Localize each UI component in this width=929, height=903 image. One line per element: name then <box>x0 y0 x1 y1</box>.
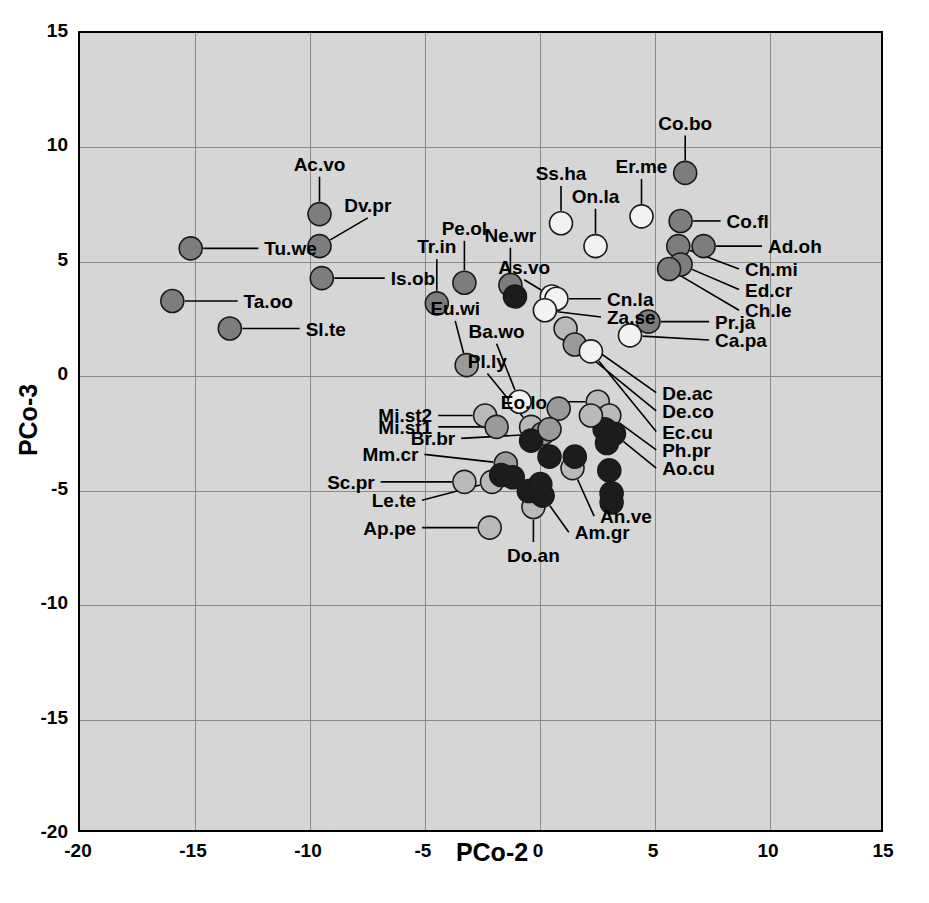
scatter-plot-figure: Tu.weTa.ooSl.teAc.voDv.prIs.obTr.inPe.ol… <box>0 0 929 903</box>
data-point-label: Ss.ha <box>536 163 587 182</box>
grid-line-horizontal <box>80 720 881 721</box>
data-point-label: Pl.ly <box>468 351 507 370</box>
data-point-label: Ta.oo <box>244 292 293 311</box>
data-point-label: Pr.ja <box>715 312 755 331</box>
grid-line-vertical <box>655 33 656 830</box>
data-point-label: De.co <box>662 401 714 420</box>
data-point-label: Ao.cu <box>662 459 715 478</box>
x-tick-label: 5 <box>648 840 659 862</box>
data-point-label: On.la <box>572 186 620 205</box>
plot-area <box>78 31 883 832</box>
y-tick-label: -20 <box>10 821 68 843</box>
data-point-label: Tu.we <box>264 239 316 258</box>
grid-line-horizontal <box>80 376 881 377</box>
grid-line-vertical <box>195 33 196 830</box>
data-point-label: Ba.wo <box>469 321 525 340</box>
data-point-label: Do.an <box>507 546 560 565</box>
y-tick-label: -10 <box>10 592 68 614</box>
data-point-label: Ad.oh <box>768 237 822 256</box>
data-point-label: Is.ob <box>391 269 435 288</box>
y-tick-label: -15 <box>10 707 68 729</box>
data-point-label: Sc.pr <box>327 472 375 491</box>
x-tick-label: -20 <box>64 840 91 862</box>
y-tick-label: -5 <box>10 478 68 500</box>
data-point-label: Mm.cr <box>362 445 418 464</box>
data-point-label: Ch.mi <box>745 260 798 279</box>
data-point-label: Ap.pe <box>363 518 416 537</box>
x-tick-label: -10 <box>294 840 321 862</box>
data-point-label: Eo.lo <box>501 392 547 411</box>
data-point-label: De.ac <box>662 383 713 402</box>
data-point-label: Ec.cu <box>662 422 713 441</box>
data-point-label: Ed.cr <box>745 280 793 299</box>
x-tick-label: 0 <box>533 840 544 862</box>
grid-line-horizontal <box>80 491 881 492</box>
data-point-label: Le.te <box>372 491 416 510</box>
data-point-label: Sl.te <box>306 319 346 338</box>
data-point-label: Cn.la <box>607 289 653 308</box>
y-axis-title: PCo-3 <box>14 384 43 456</box>
data-point-label: Ph.pr <box>662 440 711 459</box>
data-point-label: Za.se <box>607 308 656 327</box>
grid-line-vertical <box>540 33 541 830</box>
grid-line-horizontal <box>80 147 881 148</box>
x-tick-label: -15 <box>179 840 206 862</box>
y-tick-label: 0 <box>10 363 68 385</box>
x-tick-label: -5 <box>415 840 432 862</box>
data-point-label: Eu.wi <box>430 298 480 317</box>
data-point-label: Tr.in <box>417 237 456 256</box>
data-point-label: Dv.pr <box>344 195 391 214</box>
data-point-label: As.vo <box>498 257 550 276</box>
data-point-label: Ne.wr <box>485 225 537 244</box>
y-tick-label: 5 <box>10 249 68 271</box>
data-point-label: Pe.ol <box>442 218 487 237</box>
data-point-label: Co.fl <box>727 211 769 230</box>
data-point-label: Ca.pa <box>715 330 767 349</box>
data-point-label: Ac.vo <box>294 154 346 173</box>
x-tick-label: 15 <box>872 840 893 862</box>
data-point-label: Er.me <box>616 157 668 176</box>
data-point-label: An.ve <box>600 507 652 526</box>
y-tick-label: 10 <box>10 134 68 156</box>
x-axis-title: PCo-2 <box>456 838 528 867</box>
y-tick-label: 15 <box>10 20 68 42</box>
data-point-label: Co.bo <box>658 113 712 132</box>
x-tick-label: 10 <box>757 840 778 862</box>
grid-line-vertical <box>770 33 771 830</box>
grid-line-horizontal <box>80 605 881 606</box>
